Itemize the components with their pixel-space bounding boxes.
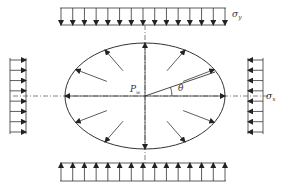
load-arrow-icon xyxy=(183,70,214,82)
angle-arc-icon xyxy=(171,87,173,96)
theta-label: θ xyxy=(178,83,184,93)
load-arrow-icon xyxy=(105,121,123,142)
sigma-y-bottom-load xyxy=(60,163,226,181)
pressure-label: Pw xyxy=(129,84,141,95)
load-arrow-icon xyxy=(76,70,107,82)
centerline-axes xyxy=(13,25,272,163)
sigma-y-label: σy xyxy=(232,9,242,21)
load-arrow-icon xyxy=(105,50,123,71)
load-arrow-icon xyxy=(76,111,107,123)
stress-diagram: σy σx Pw θ xyxy=(0,0,287,188)
load-arrow-icon xyxy=(183,111,214,123)
sigma-y-top-load xyxy=(60,8,226,25)
load-arrow-icon xyxy=(167,121,185,142)
load-arrow-icon xyxy=(167,50,185,71)
sigma-x-label: σx xyxy=(266,91,276,102)
